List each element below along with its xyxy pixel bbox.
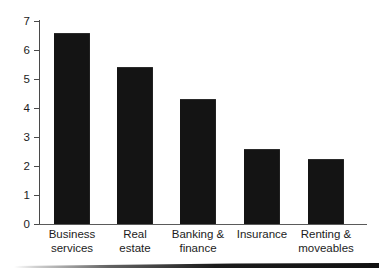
bar [244,149,280,224]
x-axis-category-label: Renting & moveables [295,228,358,255]
x-axis-category-label: Business services [41,228,104,255]
bar [180,99,216,224]
bar [54,33,90,224]
x-axis-category-label: Real estate [104,228,167,255]
x-axis-category-label: Insurance [231,228,294,242]
x-axis-category-label: Banking & finance [167,228,230,255]
bars-layer [0,0,379,240]
bar [117,67,153,224]
plot-area: 76543210 [0,0,379,240]
bar [308,159,344,224]
x-axis-category-labels: Business servicesReal estateBanking & fi… [0,228,379,268]
bar-chart-figure: 76543210 Business servicesReal estateBan… [0,0,379,275]
